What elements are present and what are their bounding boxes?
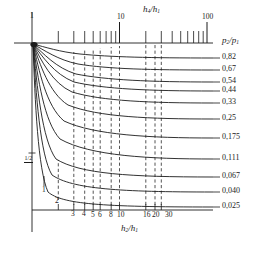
bottom-tick-label-5: 5	[91, 211, 95, 219]
origin-convergence-blob	[30, 42, 37, 47]
top-tick-label-10: 10	[117, 13, 125, 21]
bottom-tick-label-30: 30	[165, 211, 173, 219]
top-axis-ticks	[58, 22, 207, 43]
curve-label-0-82: 0,82	[222, 53, 236, 61]
bottom-tick-label-20: 20	[152, 211, 160, 219]
label-leader-lines	[213, 58, 220, 207]
legend-axis-title: p2/p1	[222, 36, 239, 45]
curve-label-0-111: 0,111	[222, 154, 239, 162]
bottom-tick-label-3: 3	[71, 210, 75, 218]
bottom-axis-title: h2/h1	[121, 224, 138, 233]
bottom-tick-label-10: 10	[117, 211, 125, 219]
curve-label-0-040: 0,040	[222, 187, 240, 195]
y-axis-lower-label: 1	[42, 186, 46, 194]
top-tick-label-100: 100	[202, 13, 213, 21]
curve-family	[33, 44, 213, 207]
curve-label-0-067: 0,067	[222, 172, 240, 180]
nomograph-chart: h4/h1 1 10 100 p2/p1 0,82 0,67 0,54 0,44…	[0, 0, 270, 265]
y-axis-half-label: 1/2	[24, 147, 33, 163]
bottom-tick-label-6: 6	[98, 211, 102, 219]
bottom-tick-label-4: 4	[82, 210, 86, 218]
curve-label-0-25: 0,25	[222, 114, 236, 122]
bottom-tick-label-2: 2	[55, 197, 59, 205]
curve-label-0-54: 0,54	[222, 77, 236, 85]
curve-label-0-67: 0,67	[222, 65, 236, 73]
bottom-tick-label-16: 16	[143, 211, 151, 219]
curve-label-0-44: 0,44	[222, 86, 236, 94]
y-axis-top-label: 1	[30, 12, 34, 20]
curve-label-0-33: 0,33	[222, 98, 236, 106]
curve-label-0-175: 0,175	[222, 133, 240, 141]
bottom-tick-label-8: 8	[109, 211, 113, 219]
curve-label-0-025: 0,025	[222, 202, 240, 210]
top-axis-title: h4/h1	[143, 5, 160, 14]
